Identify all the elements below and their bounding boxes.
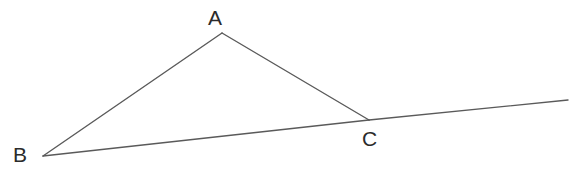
segment-bc [43,120,369,156]
geometry-figure: A B C [0,0,584,174]
ray-cd [369,100,568,120]
segment-ac [222,33,369,120]
vertex-label-c: C [362,128,377,149]
segment-ab [43,33,222,156]
geometry-canvas [0,0,584,174]
vertex-label-a: A [208,7,222,28]
vertex-label-b: B [13,144,27,165]
